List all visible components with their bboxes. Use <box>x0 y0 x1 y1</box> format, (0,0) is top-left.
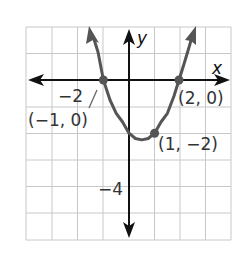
curve-arrow-left-icon <box>86 26 99 44</box>
parabola-graph: y x −2 −4 (−1, 0) (2, 0) (1, −2) <box>0 0 248 255</box>
y-axis-label: y <box>136 28 148 48</box>
point-neg1-0 <box>99 76 108 85</box>
x-axis-label: x <box>211 58 223 78</box>
point-label-2-0: (2, 0) <box>178 88 224 108</box>
tick-label-y-neg4: −4 <box>98 179 123 199</box>
tick-label-x-neg2: −2 <box>58 86 83 106</box>
leader-line <box>89 90 97 108</box>
point-2-0 <box>175 76 184 85</box>
point-label-1-neg2: (1, −2) <box>158 134 218 154</box>
point-label-neg1-0: (−1, 0) <box>28 110 88 130</box>
